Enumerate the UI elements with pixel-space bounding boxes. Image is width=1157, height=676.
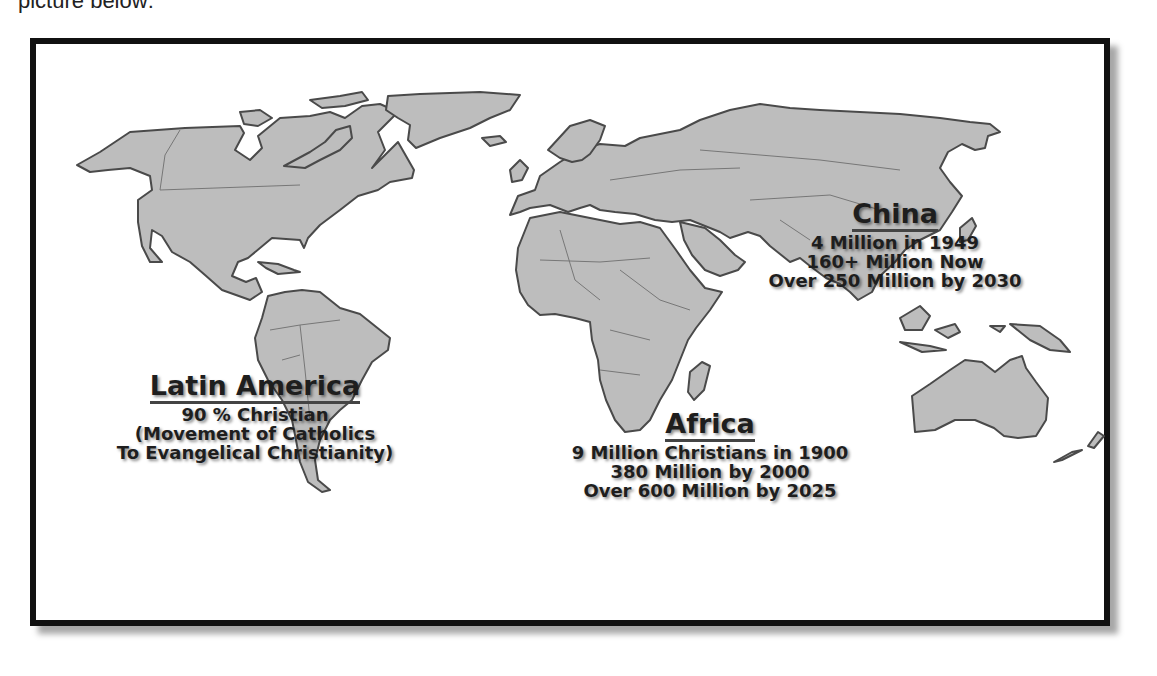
region-line: Over 250 Million by 2030 — [745, 272, 1045, 291]
region-title-latin-america: Latin America — [150, 372, 360, 404]
australia-shape — [912, 356, 1104, 462]
world-map — [0, 0, 1157, 676]
region-line: Over 600 Million by 2025 — [545, 482, 875, 501]
caribbean-shape — [258, 262, 300, 274]
southeast-asia-islands-shape — [900, 306, 1070, 352]
region-label-china: China 4 Million in 1949 160+ Million Now… — [745, 200, 1045, 291]
region-title-africa: Africa — [665, 410, 754, 442]
north-america-shape — [77, 92, 414, 300]
region-label-latin-america: Latin America 90 % Christian (Movement o… — [95, 372, 415, 463]
region-title-china: China — [852, 200, 938, 232]
region-line: To Evangelical Christianity) — [95, 444, 415, 463]
region-label-africa: Africa 9 Million Christians in 1900 380 … — [545, 410, 875, 501]
greenland-shape — [386, 92, 520, 148]
